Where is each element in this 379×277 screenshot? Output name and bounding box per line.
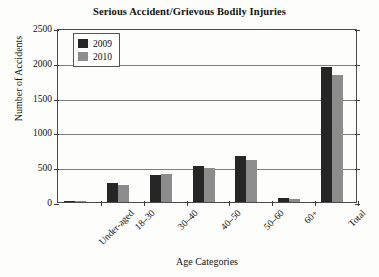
bar-2010 [289,199,300,202]
bar-2010 [204,168,215,202]
bar-2010 [332,75,343,202]
x-axis-label: Age Categories [57,256,357,267]
legend-swatch-2009 [78,39,88,48]
y-axis-tick-label: 1000 [6,128,52,138]
bar-2009 [64,201,75,202]
legend-label-2009: 2009 [93,39,112,49]
bar-2009 [193,166,204,202]
y-axis-tick-mark [54,204,59,205]
y-axis-tick-label: 2000 [6,59,52,69]
x-axis-category-label: 40–50 [219,208,243,232]
y-axis-tick-label: 1500 [6,94,52,104]
x-axis-category-label: 50–60 [262,208,286,232]
x-axis-category-label: Under-aged [97,208,136,247]
legend-swatch-2010 [78,52,88,61]
chart-title: Serious Accident/Grievous Bodily Injurie… [0,6,379,17]
y-axis-tick-label: 500 [6,163,52,173]
bar-group [229,30,272,202]
bar-2009 [150,175,161,202]
x-axis-category-label: 18–30 [133,208,157,232]
bar-2010 [161,174,172,202]
chart-figure: Serious Accident/Grievous Bodily Injurie… [0,0,379,277]
legend-item-2010: 2010 [78,50,112,63]
bar-group [144,30,187,202]
bar-2010 [246,160,257,202]
bar-group [315,30,358,202]
x-axis-category-label: Total [346,208,367,229]
y-axis-tick-label: 0 [6,198,52,208]
x-axis-tick-mark [358,201,359,206]
bar-2009 [321,67,332,202]
legend-label-2010: 2010 [93,52,112,62]
x-axis-category-label: 60+ [302,208,320,226]
bar-2010 [118,185,129,202]
bar-group [187,30,230,202]
legend-item-2009: 2009 [78,37,112,50]
bar-group [272,30,315,202]
x-axis-category-label: 30–40 [176,208,200,232]
y-axis-label: Number of Accidents [13,19,24,139]
bar-2009 [107,183,118,202]
bar-2009 [235,156,246,202]
chart-legend: 2009 2010 [73,33,120,67]
y-axis-tick-label: 2500 [6,24,52,34]
bar-2009 [278,198,289,202]
bar-2010 [75,201,86,202]
